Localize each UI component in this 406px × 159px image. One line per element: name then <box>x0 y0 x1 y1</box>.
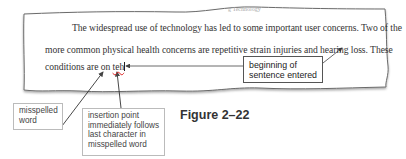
figure-label: Figure 2–22 <box>180 108 249 122</box>
callout-insertion-point: insertion point immediately follows last… <box>82 108 165 156</box>
document-line-3[interactable]: conditions are on teh <box>45 61 125 72</box>
svg-text:g Technology: g Technology <box>228 6 261 12</box>
callout-misspelled-word: misspelled word <box>13 103 63 130</box>
insertion-point-cursor <box>124 62 125 71</box>
misspelled-word[interactable]: teh <box>113 61 125 72</box>
document-line-2: more common physical health concerns are… <box>45 44 393 55</box>
document-line-1: The widespread use of technology has led… <box>72 22 402 33</box>
callout-beginning-of-sentence: beginning of sentence entered <box>243 56 323 83</box>
line-3-text: conditions are on <box>45 61 113 72</box>
